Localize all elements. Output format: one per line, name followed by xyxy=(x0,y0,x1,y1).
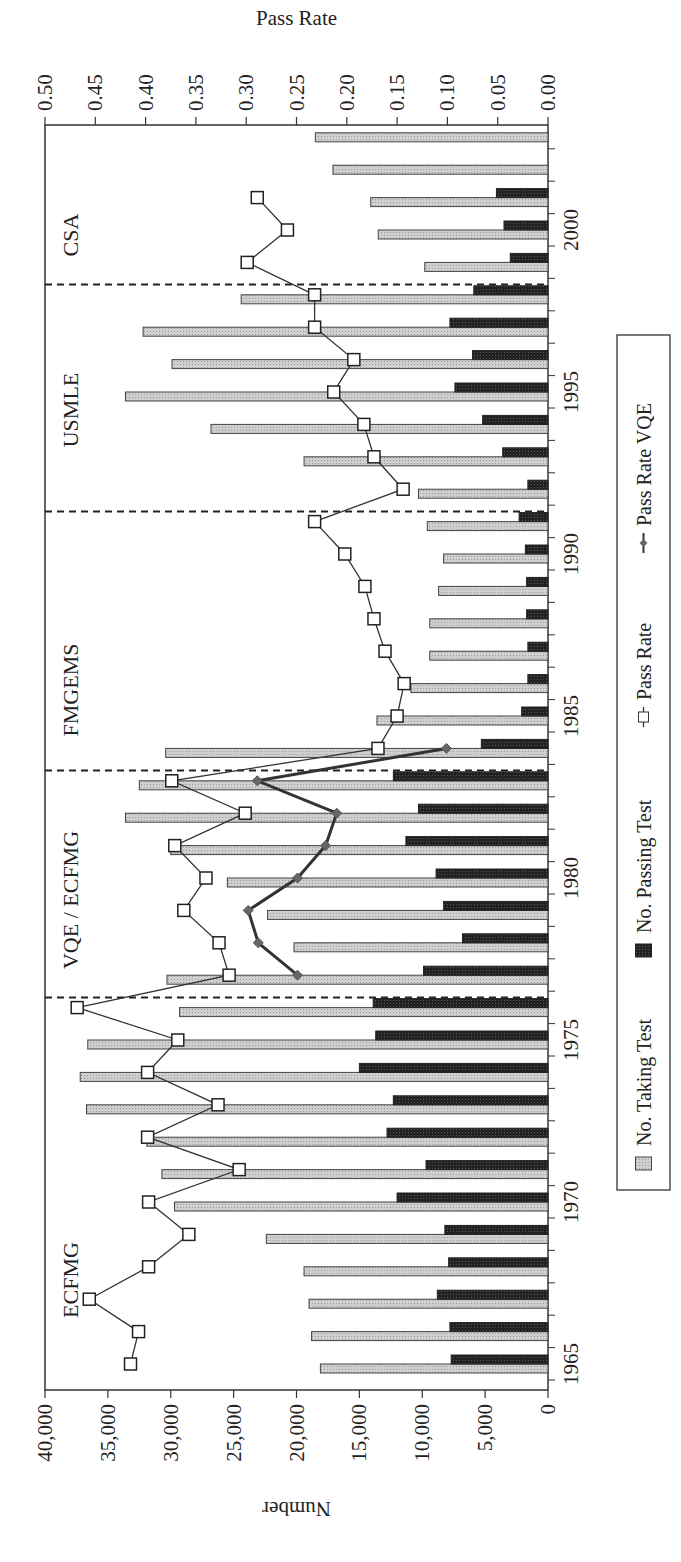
bar-passing-test xyxy=(522,707,548,716)
bar-passing-test xyxy=(527,577,548,586)
x-tick-label: 1965 xyxy=(559,1343,583,1385)
region-label: CSA xyxy=(58,213,83,256)
bar-passing-test xyxy=(387,1128,548,1137)
square-marker-icon xyxy=(143,1196,155,1208)
square-marker-icon xyxy=(397,483,409,495)
bar-passing-test xyxy=(525,545,548,554)
bar-taking-test xyxy=(241,295,548,304)
y2-tick-label: 0.20 xyxy=(335,74,359,111)
bar-taking-test xyxy=(439,586,548,595)
bar-taking-test xyxy=(425,262,548,271)
y-tick-label: 15,000 xyxy=(347,1404,371,1462)
square-marker-icon xyxy=(142,1131,154,1143)
bar-taking-test xyxy=(430,651,548,660)
bar-taking-test xyxy=(266,1234,548,1243)
y-tick-label: 25,000 xyxy=(222,1404,246,1462)
square-marker-icon xyxy=(348,354,360,366)
legend-label: Pass Rate VQE xyxy=(633,403,655,526)
black-bar-swatch-icon xyxy=(636,944,652,957)
square-marker-icon xyxy=(358,418,370,430)
square-marker-icon xyxy=(639,712,649,722)
x-tick-label: 1975 xyxy=(559,1019,583,1061)
bar-taking-test xyxy=(320,1364,548,1373)
bar-taking-test xyxy=(427,522,548,531)
y-tick-label: 35,000 xyxy=(96,1404,120,1462)
legend-label: Pass Rate xyxy=(633,623,655,700)
y-tick-label: 20,000 xyxy=(285,1404,309,1462)
square-marker-icon xyxy=(372,742,384,754)
legend-label: No. Taking Test xyxy=(633,1019,656,1146)
bar-taking-test xyxy=(171,846,548,855)
bar-passing-test xyxy=(373,999,548,1008)
x-tick-label: 1990 xyxy=(559,533,583,575)
bar-passing-test xyxy=(450,1323,548,1332)
bar-taking-test xyxy=(211,424,548,433)
bar-taking-test xyxy=(378,230,548,239)
bar-passing-test xyxy=(451,1355,548,1364)
bar-passing-test xyxy=(504,221,548,230)
bar-taking-test xyxy=(175,1202,548,1211)
square-marker-icon xyxy=(223,969,235,981)
legend: No. Taking TestNo. Passing TestPass Rate… xyxy=(617,335,670,1190)
bar-passing-test xyxy=(436,869,548,878)
bar-passing-test xyxy=(393,772,548,781)
y-tick-label: 0 xyxy=(536,1404,560,1415)
y-tick-label: 10,000 xyxy=(410,1404,434,1462)
bar-passing-test xyxy=(449,1258,548,1267)
bar-taking-test xyxy=(268,910,548,919)
square-marker-icon xyxy=(309,516,321,528)
bar-passing-test xyxy=(510,253,548,262)
region-label: USMLE xyxy=(58,373,83,448)
square-marker-icon xyxy=(368,613,380,625)
square-marker-icon xyxy=(241,256,253,268)
region-dividers: ECFMGVQE / ECFMGFMGEMSUSMLECSA xyxy=(45,213,548,1317)
y2-tick-label: 0.15 xyxy=(385,74,409,111)
bar-taking-test xyxy=(315,133,548,142)
bar-taking-test xyxy=(304,1267,548,1276)
square-marker-icon xyxy=(309,321,321,333)
square-marker-icon xyxy=(359,580,371,592)
square-marker-icon xyxy=(169,840,181,852)
bar-taking-test xyxy=(333,165,548,174)
square-marker-icon xyxy=(239,807,251,819)
bar-taking-test xyxy=(139,781,548,790)
y-tick-label: 5,000 xyxy=(473,1404,497,1451)
bar-taking-test xyxy=(147,1137,548,1146)
y2-tick-label: 0.50 xyxy=(33,74,57,111)
legend-label: No. Passing Test xyxy=(633,799,656,933)
square-marker-icon xyxy=(166,775,178,787)
combo-bar-line-chart: ECFMGVQE / ECFMGFMGEMSUSMLECSA 05,00010,… xyxy=(0,0,681,1562)
bar-passing-test xyxy=(473,351,548,360)
bar-taking-test xyxy=(162,1170,548,1179)
bar-passing-test xyxy=(444,901,548,910)
bar-taking-test xyxy=(430,619,548,628)
region-label: FMGEMS xyxy=(58,644,83,737)
square-marker-icon xyxy=(379,645,391,657)
square-marker-icon xyxy=(71,1002,83,1014)
y2-tick-label: 0.10 xyxy=(435,74,459,111)
square-marker-icon xyxy=(328,386,340,398)
region-label: ECFMG xyxy=(58,1242,83,1318)
bar-taking-test xyxy=(312,1332,548,1341)
bar-taking-test xyxy=(294,943,548,952)
square-marker-icon xyxy=(200,872,212,884)
bar-passing-test xyxy=(455,383,548,392)
bar-passing-test xyxy=(359,1063,548,1072)
y2-tick-label: 0.35 xyxy=(184,74,208,111)
square-marker-icon xyxy=(212,1099,224,1111)
bar-taking-test xyxy=(418,489,548,498)
square-marker-icon xyxy=(233,1164,245,1176)
y2-tick-label: 0.30 xyxy=(234,74,258,111)
square-marker-icon xyxy=(142,1066,154,1078)
bar-passing-test xyxy=(503,448,548,457)
bar-taking-test xyxy=(309,1299,548,1308)
y2-tick-label: 0.25 xyxy=(285,74,309,111)
y2-tick-label: 0.05 xyxy=(486,74,510,111)
square-marker-icon xyxy=(125,1358,137,1370)
square-marker-icon xyxy=(133,1326,145,1338)
bar-passing-test xyxy=(528,480,548,489)
y2-tick-label: 0.45 xyxy=(83,74,107,111)
bar-passing-test xyxy=(426,1161,548,1170)
bar-passing-test xyxy=(376,1031,548,1040)
bar-passing-test xyxy=(527,610,548,619)
